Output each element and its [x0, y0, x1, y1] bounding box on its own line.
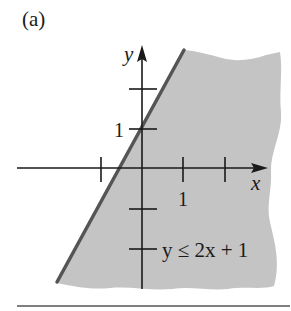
- y-tick-label-1: 1: [114, 119, 124, 141]
- inequality-label: y ≤ 2x + 1: [162, 238, 248, 262]
- panel-label: (a): [22, 7, 45, 31]
- inequality-graph: (a) y x 1 1 y ≤ 2x + 1: [0, 0, 291, 311]
- x-axis-label: x: [250, 171, 261, 195]
- x-tick-label-1: 1: [178, 188, 188, 210]
- y-axis-label: y: [122, 42, 134, 66]
